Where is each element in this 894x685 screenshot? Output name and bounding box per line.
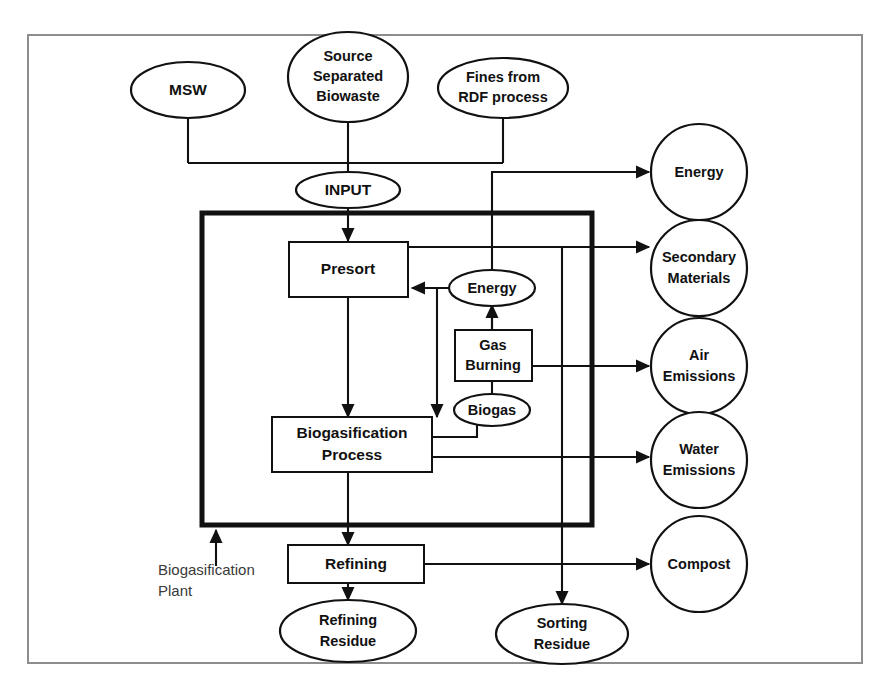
node-msw-label: MSW [169, 81, 207, 98]
node-water-emissions: Water Emissions [651, 412, 747, 508]
node-water-emissions-label-line2: Emissions [663, 462, 736, 478]
node-compost: Compost [651, 516, 747, 612]
node-energy-internal-label: Energy [467, 280, 516, 296]
node-source-separated-biowaste: Source Separated Biowaste [288, 32, 408, 122]
node-sorting-residue-label-line1: Sorting [537, 615, 588, 631]
plant-label-line2: Plant [158, 582, 193, 599]
node-energy-internal: Energy [449, 270, 535, 306]
node-refining-residue-label-line1: Refining [319, 612, 377, 628]
node-air-emissions: Air Emissions [651, 318, 747, 414]
node-gas-burning-label-line1: Gas [479, 337, 506, 353]
node-water-emissions-label-line1: Water [679, 441, 719, 457]
node-fines-label-line1: Fines from [466, 69, 540, 85]
node-fines-from-rdf-process: Fines from RDF process [438, 58, 568, 118]
node-ssb-label-line1: Source [323, 48, 372, 64]
node-gas-burning-label-line2: Burning [465, 357, 521, 373]
node-biogasification-label-line2: Process [322, 446, 382, 463]
node-secondary-materials-label-line2: Materials [668, 270, 731, 286]
node-presort-label: Presort [321, 260, 375, 277]
node-gas-burning: Gas Burning [455, 330, 532, 381]
node-ssb-label-line3: Biowaste [316, 88, 380, 104]
node-refining-residue-label-line2: Residue [320, 633, 376, 649]
connector-energy-riser-to-energy-circle [492, 172, 649, 330]
node-secondary-materials-label-line1: Secondary [662, 249, 736, 265]
node-biogas: Biogas [454, 394, 530, 426]
flow-diagram-canvas: MSW Source Separated Biowaste Fines from… [0, 0, 894, 685]
node-energy-output: Energy [651, 124, 747, 220]
node-msw: MSW [131, 62, 245, 118]
node-biogas-label: Biogas [468, 402, 516, 418]
node-compost-label: Compost [668, 556, 731, 572]
node-air-emissions-label-line1: Air [689, 347, 710, 363]
node-biogasification-process: Biogasification Process [272, 417, 432, 472]
node-refining-label: Refining [325, 555, 387, 572]
node-sorting-residue-label-line2: Residue [534, 636, 590, 652]
node-sorting-residue: Sorting Residue [496, 604, 628, 664]
node-biogasification-label-line1: Biogasification [296, 424, 407, 441]
node-refining-residue: Refining Residue [280, 600, 416, 662]
node-refining: Refining [288, 545, 424, 583]
node-input: INPUT [296, 172, 400, 208]
node-presort: Presort [289, 242, 408, 297]
biogasification-flow-diagram: MSW Source Separated Biowaste Fines from… [0, 0, 894, 685]
node-air-emissions-label-line2: Emissions [663, 368, 736, 384]
plant-boundary-callout-label: Biogasification Plant [158, 561, 255, 599]
node-input-label: INPUT [325, 181, 372, 198]
node-ssb-label-line2: Separated [313, 68, 383, 84]
node-fines-label-line2: RDF process [458, 89, 547, 105]
plant-label-line1: Biogasification [158, 561, 255, 578]
node-secondary-materials: Secondary Materials [651, 220, 747, 316]
node-energy-output-label: Energy [674, 164, 723, 180]
